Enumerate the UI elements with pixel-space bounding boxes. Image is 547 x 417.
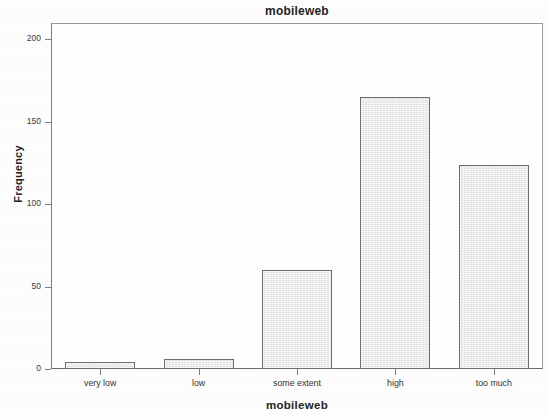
bar-too-much [459, 165, 529, 369]
chart-title: mobileweb [51, 4, 543, 18]
y-tick-mark [45, 39, 51, 40]
y-tick-label: 100 [0, 198, 41, 208]
x-tick-mark [494, 369, 495, 375]
y-tick-mark [45, 122, 51, 123]
y-tick-label: 0 [0, 363, 41, 373]
bar-high [360, 97, 430, 369]
x-axis-title: mobileweb [51, 399, 543, 411]
x-tick-label: too much [434, 378, 547, 388]
bar-very-low [65, 362, 135, 369]
y-axis-title: Frequency [12, 114, 24, 234]
bar-some-extent [262, 270, 332, 369]
y-tick-mark [45, 287, 51, 288]
chart-figure: mobileweb Frequency 050100150200 very lo… [0, 0, 547, 417]
y-tick-label: 200 [0, 33, 41, 43]
y-tick-mark [45, 204, 51, 205]
x-tick-mark [100, 369, 101, 375]
bar-low [164, 359, 234, 369]
x-tick-mark [395, 369, 396, 375]
y-tick-label: 50 [0, 281, 41, 291]
y-tick-mark [45, 369, 51, 370]
x-tick-mark [199, 369, 200, 375]
y-tick-label: 150 [0, 116, 41, 126]
x-tick-mark [297, 369, 298, 375]
